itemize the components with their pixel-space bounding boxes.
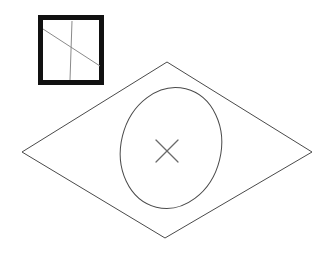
- inset-detail-box: [38, 15, 104, 85]
- diagram-canvas: [0, 0, 333, 253]
- figure-root: [0, 0, 333, 253]
